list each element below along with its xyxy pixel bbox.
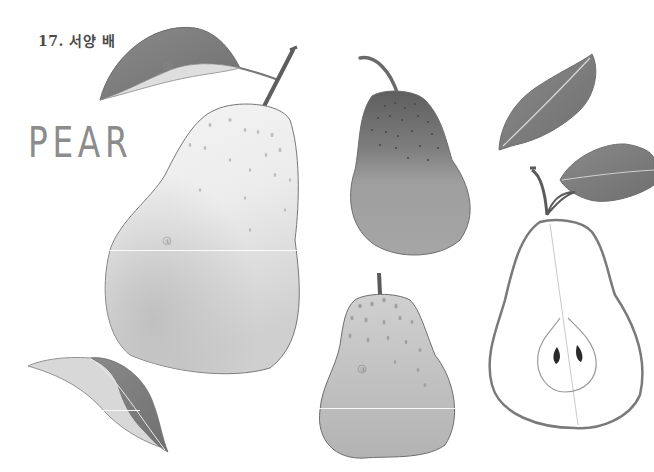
label-4: ④ xyxy=(166,63,172,71)
label-1: ① xyxy=(165,238,171,246)
small-pear: ③ xyxy=(319,273,454,458)
bottom-left-leaf xyxy=(28,357,168,452)
top-leaf: ④ xyxy=(100,27,278,100)
half-pear-cross-section xyxy=(490,168,643,428)
big-pear: ① xyxy=(105,47,299,374)
right-top-leaf xyxy=(499,54,596,150)
pear-illustrations: ④ xyxy=(0,0,654,472)
scan-line-1 xyxy=(100,250,300,251)
scan-line-2 xyxy=(85,410,140,411)
label-3: ③ xyxy=(360,366,366,374)
scan-line-3 xyxy=(318,408,463,409)
coloring-page: 17. 서양 배 PEAR xyxy=(0,0,654,472)
dark-pear xyxy=(351,58,471,255)
